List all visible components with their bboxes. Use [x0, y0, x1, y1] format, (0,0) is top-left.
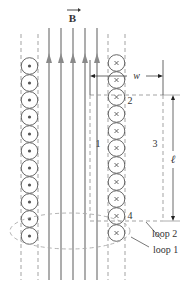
wire-out-of-page [21, 109, 38, 126]
wire-into-page [108, 157, 125, 174]
vector-arrowhead-icon [78, 8, 81, 12]
wire-into-page [108, 72, 125, 89]
wire-into-page [108, 208, 125, 225]
path-label-2: 2 [128, 95, 133, 106]
wire-out-of-page [21, 228, 38, 245]
up-arrow-icon [94, 53, 100, 63]
up-arrow-icon [46, 53, 52, 63]
dot-icon [28, 81, 31, 84]
solenoid-cross-section-diagram: B [0, 0, 192, 287]
field-label-group: B [67, 8, 81, 24]
wire-into-page [108, 191, 125, 208]
loop-1-leader-line [131, 237, 149, 247]
wire-out-of-page [21, 92, 38, 109]
wire-out-of-page [21, 211, 38, 228]
wire-out-of-page [21, 75, 38, 92]
loop-2-rectangle [90, 95, 163, 221]
wire-into-page [108, 174, 125, 191]
path-label-1: 1 [96, 138, 101, 149]
field-arrowheads [46, 53, 100, 63]
wire-into-page [108, 89, 125, 106]
wire-out-of-page [21, 160, 38, 177]
dot-icon [28, 64, 31, 67]
dot-icon [28, 115, 31, 118]
right-arrowhead-icon [158, 74, 163, 78]
width-dimension: w [90, 60, 163, 95]
loop-2-label: loop 2 [152, 228, 177, 239]
wire-out-of-page [21, 58, 38, 75]
up-arrowhead-icon [171, 95, 175, 100]
down-arrowhead-icon [171, 216, 175, 221]
dot-icon [28, 132, 31, 135]
width-label: w [133, 70, 140, 81]
dot-icon [28, 166, 31, 169]
up-arrow-icon [82, 53, 88, 63]
path-label-3: 3 [153, 138, 158, 149]
wire-into-page [108, 225, 125, 242]
loop-1-label: loop 1 [153, 244, 178, 255]
wire-into-page [108, 123, 125, 140]
wire-out-of-page [21, 177, 38, 194]
wire-into-page [108, 55, 125, 72]
field-label: B [69, 12, 77, 24]
wire-out-of-page [21, 126, 38, 143]
wire-out-of-page [21, 143, 38, 160]
dot-icon [28, 234, 31, 237]
up-arrow-icon [70, 53, 76, 63]
path-label-4: 4 [128, 210, 133, 221]
length-label: ℓ [171, 153, 176, 165]
dot-icon [28, 200, 31, 203]
dot-icon [28, 183, 31, 186]
length-dimension: ℓ [171, 95, 176, 221]
left-arrowhead-icon [90, 74, 95, 78]
dot-icon [28, 149, 31, 152]
right-wire-column [108, 55, 125, 242]
wire-into-page [108, 106, 125, 123]
dot-icon [28, 98, 31, 101]
wire-out-of-page [21, 194, 38, 211]
up-arrow-icon [58, 53, 64, 63]
wire-into-page [108, 140, 125, 157]
